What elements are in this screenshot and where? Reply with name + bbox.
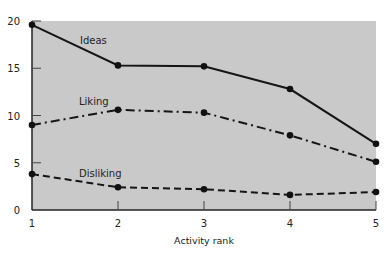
series-label-disliking: Disliking <box>79 168 122 179</box>
data-point <box>287 86 294 93</box>
data-point <box>29 21 36 28</box>
y-tick-label: 0 <box>14 205 20 216</box>
series-label-liking: Liking <box>79 96 109 107</box>
x-tick-label: 2 <box>115 218 121 229</box>
data-point <box>373 141 380 148</box>
x-tick-label: 3 <box>201 218 207 229</box>
data-point <box>29 171 36 178</box>
data-point <box>115 62 122 69</box>
y-tick-label: 20 <box>7 16 20 27</box>
data-point <box>201 109 208 116</box>
data-point <box>287 192 294 199</box>
data-point <box>201 63 208 70</box>
y-tick-label: 5 <box>14 158 20 169</box>
x-tick-label: 4 <box>287 218 293 229</box>
data-point <box>115 107 122 114</box>
x-tick-label: 1 <box>29 218 35 229</box>
data-point <box>373 189 380 196</box>
data-point <box>373 159 380 166</box>
data-point <box>201 186 208 193</box>
data-point <box>29 122 36 129</box>
x-tick-label: 5 <box>373 218 379 229</box>
data-point <box>115 184 122 191</box>
data-point <box>287 132 294 139</box>
y-tick-label: 10 <box>7 111 20 122</box>
line-chart: 0510152012345 IdeasLikingDisliking Activ… <box>0 0 386 257</box>
x-axis-title: Activity rank <box>174 235 234 246</box>
y-tick-label: 15 <box>7 63 20 74</box>
series-label-ideas: Ideas <box>80 35 107 46</box>
